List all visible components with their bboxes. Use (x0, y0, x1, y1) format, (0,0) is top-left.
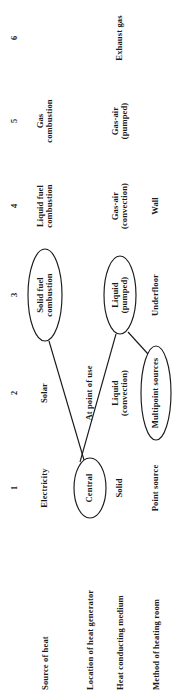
option-r4-c2-selected[interactable]: Multipoint sources (151, 344, 160, 442)
option-r1-c2[interactable]: Solar (40, 363, 49, 423)
option-r1-c5[interactable]: Gas combustion (36, 88, 54, 154)
row-label-location-of-heat-generator: Location of heat generator (85, 590, 95, 690)
row-label-source-of-heat: Source of heat (40, 636, 50, 690)
column-number-5: 5 (10, 119, 19, 123)
link-liquidpumped-to-multipoint (128, 332, 148, 354)
option-r1-c4[interactable]: Liquid fuel combustion (36, 168, 54, 244)
option-r3-c5[interactable]: Gas-air (pumped) (111, 86, 129, 156)
option-r1-c3-selected[interactable]: Solid fuel combustion (36, 259, 54, 331)
option-r1-c1[interactable]: Electricity (40, 453, 49, 523)
option-r3-c3-selected[interactable]: Liquid (pumped) (111, 261, 129, 329)
option-r4-c4[interactable]: Wall (151, 182, 160, 230)
option-r3-c2[interactable]: Liquid (convection) (111, 355, 129, 431)
option-r2-c2[interactable]: At point of use (85, 350, 94, 436)
column-number-4: 4 (10, 204, 19, 208)
column-number-3: 3 (10, 293, 19, 297)
morphological-chart-stage: 1 2 3 4 5 6 Source of heat Location of h… (0, 0, 188, 698)
column-number-6: 6 (10, 36, 19, 40)
option-r3-c1[interactable]: Solid (115, 460, 124, 516)
row-label-method-of-heating-room: Method of heating room (151, 599, 161, 690)
link-solidfuel-to-central (49, 341, 84, 460)
row-label-heat-conducting-medium: Heat conducting medium (115, 595, 125, 690)
option-r4-c3[interactable]: Underfloor (151, 259, 160, 331)
option-r3-c6[interactable]: Exhaust gas (115, 0, 124, 76)
column-number-1: 1 (10, 486, 19, 490)
option-r2-c1-selected[interactable]: Central (85, 455, 94, 521)
column-number-2: 2 (10, 391, 19, 395)
option-r4-c1[interactable]: Point source (151, 450, 160, 526)
option-r3-c4[interactable]: Gas-air (convection) (111, 167, 129, 245)
morphological-chart: 1 2 3 4 5 6 Source of heat Location of h… (0, 0, 188, 698)
